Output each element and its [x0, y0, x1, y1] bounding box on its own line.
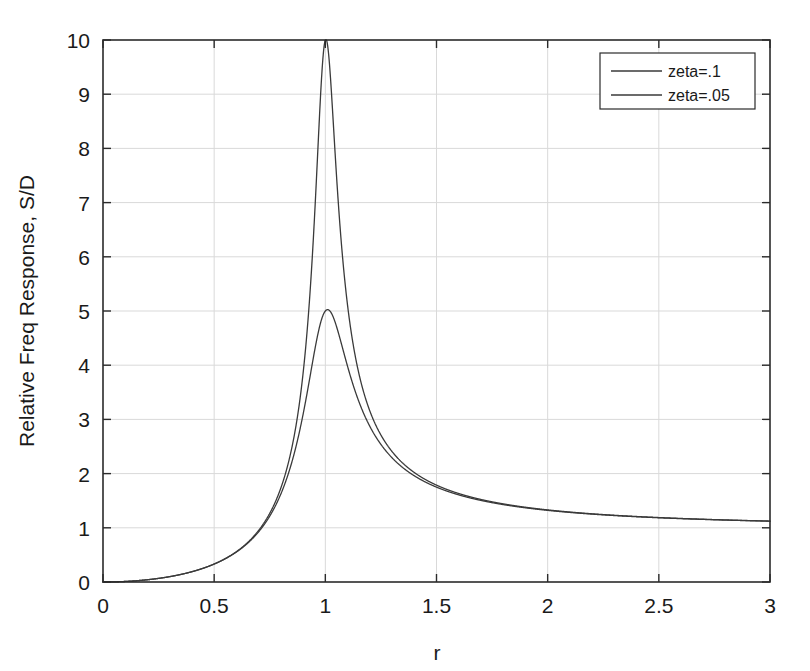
x-tick-label: 1.5 — [422, 594, 451, 617]
x-tick-label: 0 — [97, 594, 109, 617]
y-tick-label: 7 — [78, 192, 90, 215]
y-tick-label: 10 — [67, 29, 90, 52]
y-tick-label: 2 — [78, 463, 90, 486]
y-axis-label: Relative Freq Response, S/D — [15, 175, 38, 447]
x-tick-label: 0.5 — [200, 594, 229, 617]
legend-label-zeta-0.05: zeta=.05 — [668, 87, 730, 104]
frequency-response-chart: 00.511.522.53 012345678910 r Relative Fr… — [0, 0, 810, 671]
legend-label-zeta-0.1: zeta=.1 — [668, 63, 721, 80]
y-tick-label: 0 — [78, 571, 90, 594]
x-tick-label: 2 — [542, 594, 554, 617]
y-tick-label: 1 — [78, 517, 90, 540]
y-tick-label: 6 — [78, 246, 90, 269]
figure-container: 00.511.522.53 012345678910 r Relative Fr… — [0, 0, 810, 671]
x-axis-label: r — [434, 641, 441, 664]
legend: zeta=.1 zeta=.05 — [600, 53, 755, 109]
y-tick-label: 3 — [78, 408, 90, 431]
y-tick-label: 9 — [78, 83, 90, 106]
y-tick-label: 5 — [78, 300, 90, 323]
y-tick-label: 8 — [78, 137, 90, 160]
x-tick-label: 1 — [319, 594, 331, 617]
y-tick-label: 4 — [78, 354, 90, 377]
x-tick-label: 2.5 — [644, 594, 673, 617]
x-tick-label: 3 — [764, 594, 776, 617]
